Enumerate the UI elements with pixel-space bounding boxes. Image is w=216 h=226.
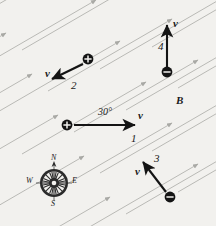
- charge-marker-positive-1: [62, 120, 73, 131]
- compass-label-north: N: [51, 154, 56, 162]
- angle-label-30deg: 30°: [98, 107, 112, 117]
- velocity-arrow-2: [52, 64, 83, 79]
- particle-number-3: 3: [154, 153, 160, 164]
- compass-label-east: E: [72, 177, 77, 185]
- velocity-label-2: v: [45, 68, 50, 79]
- field-label-B: B: [176, 95, 183, 106]
- velocity-label-1: v: [138, 110, 143, 121]
- charge-marker-positive-2: [83, 54, 94, 65]
- magnetic-field-diagram: B 30° v 1 v 2 v 3 v 4 N E S W: [0, 0, 216, 226]
- velocity-label-4: v: [173, 18, 178, 29]
- compass-label-south: S: [51, 200, 55, 208]
- compass-label-west: W: [26, 177, 33, 185]
- velocity-arrow-3: [143, 162, 166, 192]
- charge-marker-negative-4: [162, 67, 173, 78]
- particle-number-4: 4: [158, 41, 164, 52]
- charge-markers: [62, 54, 176, 203]
- particle-number-2: 2: [71, 80, 77, 91]
- charge-marker-negative-3: [165, 192, 176, 203]
- compass-rose-graphic: [36, 161, 72, 201]
- particle-number-1: 1: [131, 133, 137, 144]
- velocity-label-3: v: [135, 166, 140, 177]
